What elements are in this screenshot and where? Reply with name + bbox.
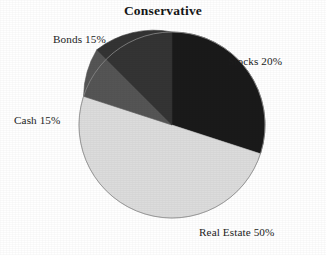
pie-label-stocks: Stocks 20% (228, 55, 282, 67)
pie-label-cash: Cash 15% (14, 114, 60, 126)
pie-chart-figure: Conservative Bonds 15% Stocks 20% Cash 1… (0, 0, 326, 255)
pie-label-real-estate: Real Estate 50% (199, 226, 274, 238)
pie-graphic (0, 0, 326, 255)
pie-label-bonds: Bonds 15% (53, 33, 106, 45)
